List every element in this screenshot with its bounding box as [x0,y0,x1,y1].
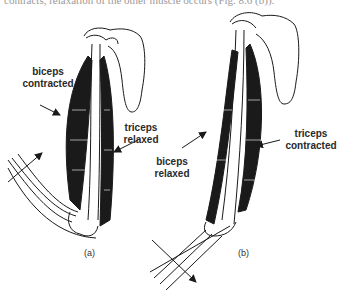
label-line: contracted [20,78,76,90]
shoulder-blade [230,13,299,104]
panel-label-b: (b) [238,248,249,258]
label-line: relaxed [150,168,194,180]
label-line: triceps [282,128,340,140]
movement-arrow-down [152,240,196,282]
shoulder-blade [84,28,145,112]
panel-label-a: (a) [84,248,95,258]
label-line: triceps [116,122,166,134]
label-line: biceps [150,156,194,168]
triceps-muscle [100,56,113,226]
label-line: biceps [20,66,76,78]
biceps-muscle [206,50,238,224]
label-line: contracted [282,140,340,152]
elbow-joint [204,222,236,236]
label-biceps-relaxed: biceps relaxed [150,156,194,180]
elbow-joint [68,212,98,236]
label-line: relaxed [116,134,166,146]
label-biceps-contracted: biceps contracted [20,66,76,90]
panel-b-drawing [150,13,299,290]
label-triceps-relaxed: triceps relaxed [116,122,166,146]
label-triceps-contracted: triceps contracted [282,128,340,152]
